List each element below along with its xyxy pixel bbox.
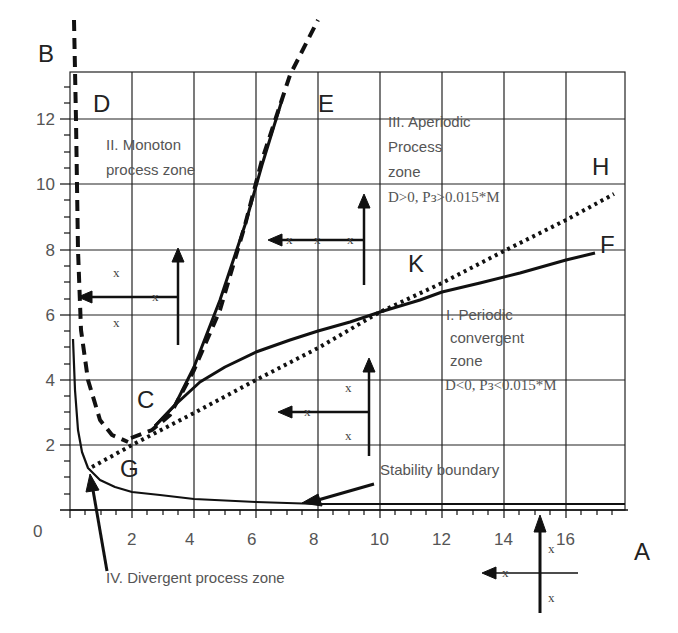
point-g: G: [120, 455, 139, 482]
root-marker: x: [286, 232, 293, 247]
y-tick: 4: [46, 371, 55, 390]
zone3-label: III. Aperiodic Process zone D>0, Pз>0.01…: [388, 113, 500, 205]
root-marker: x: [548, 541, 555, 556]
root-marker: x: [345, 428, 352, 443]
stability-boundary-curve: [73, 339, 625, 504]
root-marker: x: [113, 315, 120, 330]
root-diagram-zone2: [78, 248, 184, 345]
x-tick: 12: [432, 530, 451, 549]
arrow-left-icon: [482, 567, 496, 579]
point-k: K: [408, 250, 424, 277]
x-tick: 4: [185, 530, 194, 549]
y-tick: 6: [46, 306, 55, 325]
root-marker: x: [304, 404, 311, 419]
y-axis: [60, 87, 70, 494]
root-marker: x: [314, 232, 321, 247]
axis-label-b: B: [38, 40, 54, 67]
arrow-up-icon: [358, 194, 370, 208]
point-c: C: [137, 386, 154, 413]
x-tick: 6: [247, 530, 256, 549]
zone3-line3: zone: [388, 163, 421, 180]
zone1-condition: D<0, Pз<0.015*M: [445, 377, 557, 393]
zone4-pointer: [86, 474, 107, 571]
x-tick: 2: [127, 530, 136, 549]
arrow-up-icon: [363, 358, 375, 372]
root-diagram-zone1: [278, 358, 375, 456]
zone1-line1: I. Periodic: [446, 306, 513, 323]
zone1-line2: convergent: [450, 329, 525, 346]
curve-dashed-e: [131, 20, 318, 438]
stability-boundary-label: Stability boundary: [380, 461, 500, 478]
zone4-label: IV. Divergent process zone: [106, 569, 285, 586]
point-f: F: [600, 231, 615, 258]
stability-boundary-pointer: [302, 484, 374, 506]
root-marker: x: [502, 565, 509, 580]
zone2-line2: process zone: [106, 161, 195, 178]
zone3-line2: Process: [388, 138, 442, 155]
zone3-line1: III. Aperiodic: [388, 113, 471, 130]
point-e: E: [318, 90, 334, 117]
root-marker: x: [152, 289, 159, 304]
arrow-up-icon: [534, 515, 546, 532]
curve-solid-f: [155, 253, 595, 426]
arrow-left-icon: [268, 234, 282, 246]
root-marker: x: [345, 380, 352, 395]
zone1-label: I. Periodic convergent zone D<0, Pз<0.01…: [445, 306, 557, 393]
y-tick: 10: [36, 175, 55, 194]
x-tick: 8: [309, 530, 318, 549]
y-tick: 8: [46, 241, 55, 260]
zone2-line1: II. Monoton: [106, 136, 181, 153]
x-axis: [60, 510, 628, 518]
root-marker: x: [113, 265, 120, 280]
point-d: D: [93, 90, 110, 117]
zone2-label: II. Monoton process zone: [106, 136, 195, 178]
origin-label: 0: [33, 522, 42, 541]
zone3-condition: D>0, Pз>0.015*M: [388, 189, 500, 205]
x-tick: 10: [370, 530, 389, 549]
curve-dashed-d: [74, 20, 128, 442]
root-marker: x: [347, 232, 354, 247]
arrow-left-icon: [278, 406, 292, 418]
x-tick: 14: [494, 530, 513, 549]
y-tick-labels: 2 4 6 8 10 12: [36, 110, 55, 455]
root-marker: x: [548, 590, 555, 605]
diagram-canvas: 0 2 4 6 8 10 12 14 16 2 4 6 8 10 12: [0, 0, 678, 633]
y-tick: 12: [36, 110, 55, 129]
point-h: H: [592, 153, 609, 180]
y-tick: 2: [46, 436, 55, 455]
x-tick: 16: [556, 530, 575, 549]
x-tick-labels: 0 2 4 6 8 10 12 14 16: [33, 522, 575, 549]
axis-label-a: A: [634, 538, 650, 565]
zone1-line3: zone: [450, 352, 483, 369]
